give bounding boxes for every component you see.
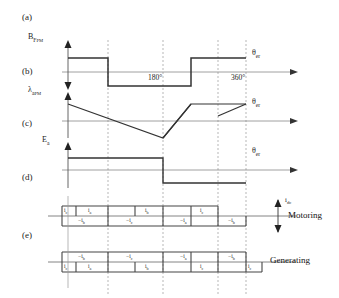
panel-label-d: (d) (22, 172, 33, 182)
current-generating-lower-1: ia (88, 263, 91, 271)
idc-label: idc (285, 196, 291, 205)
mode-label-motoring: Motoring (288, 210, 322, 220)
axis-label-theta-c: θer (252, 146, 260, 157)
current-motoring-lower-2: −ia (180, 217, 187, 225)
flux-density-sub2: PM (36, 38, 43, 43)
panel-label-e: (e) (22, 230, 32, 240)
angle-label-180: 180° (148, 73, 162, 82)
back-emf-sub: a (47, 140, 49, 146)
signal-label-flux-density: BFPM (28, 32, 43, 43)
current-generating-lower-2: ib (145, 263, 149, 271)
cur-sub: a (90, 210, 92, 215)
axis-label-theta-a: θer (252, 48, 260, 59)
cur-sub: c (66, 266, 68, 271)
current-motoring-lower-1: −ic (126, 217, 133, 225)
cur-sub: b (233, 220, 235, 225)
cur-sub: c (202, 266, 204, 271)
theta-sub-c: er (256, 151, 260, 157)
current-motoring-upper-1: ia (88, 207, 91, 215)
current-motoring-lower-0: −ib (78, 217, 85, 225)
plot-flux-linkage (62, 92, 298, 138)
idc-sub: dc (287, 200, 291, 205)
current-motoring-upper-0: ic (64, 207, 67, 215)
cur-sub: a (185, 256, 187, 261)
current-generating-lower-3: ic (200, 263, 203, 271)
current-motoring-upper-2: ib (145, 207, 149, 215)
figure-waveform-diagram: (a) (b) (c) (d) (e) BFPM λaPM Ea θer θer… (0, 0, 339, 298)
current-generating-upper-2: −ia (180, 253, 187, 261)
panel-label-c: (c) (22, 118, 32, 128)
current-generating-upper-0: −ib (78, 253, 85, 261)
cur-sub: a (90, 266, 92, 271)
theta-sub-a: er (256, 53, 260, 59)
current-generating-lower-0: ic (64, 263, 67, 271)
current-motoring-lower-3: −ib (228, 217, 235, 225)
current-generating-lower-4: ic (248, 263, 251, 271)
cur-sub: b (83, 220, 85, 225)
plot-current-blocks (48, 196, 296, 288)
current-generating-upper-3: −ib (228, 253, 235, 261)
cur-sub: c (202, 210, 204, 215)
signal-label-flux-linkage: λaPM (28, 85, 41, 96)
axis-label-theta-b: θer (252, 97, 260, 108)
cur-sub: b (147, 266, 149, 271)
mode-label-generating: Generating (270, 255, 310, 265)
angle-label-360: 360° (231, 73, 245, 82)
cur-sub: c (131, 256, 133, 261)
panel-label-a: (a) (22, 12, 32, 22)
current-generating-upper-1: −ic (126, 253, 133, 261)
cur-sub: b (147, 210, 149, 215)
cur-sub: b (83, 256, 85, 261)
panel-label-b: (b) (22, 66, 33, 76)
theta-sub-b: er (256, 102, 260, 108)
cur-sub: c (250, 266, 252, 271)
cur-sub: c (66, 210, 68, 215)
plot-flux-density (62, 40, 298, 90)
signal-label-back-emf: Ea (42, 135, 49, 146)
cur-sub: a (185, 220, 187, 225)
flux-linkage-sub2: PM (34, 91, 41, 96)
cur-sub: c (131, 220, 133, 225)
current-motoring-upper-3: ic (200, 207, 203, 215)
waveform-canvas (0, 0, 339, 298)
cur-sub: b (233, 256, 235, 261)
plot-back-emf (62, 142, 298, 188)
